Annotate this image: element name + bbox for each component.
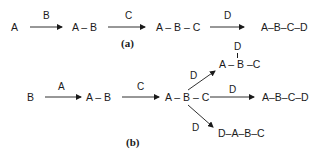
node-a-start: A: [11, 21, 18, 33]
caption-a: (a): [121, 37, 134, 49]
node-a-ab: A – B: [72, 21, 97, 33]
node-a-abcd: A–B–C–D: [261, 21, 308, 33]
product-prepended: D–A–B–C: [218, 127, 265, 139]
product-branched-substituent: D: [234, 41, 241, 53]
node-b-ab: A – B: [86, 91, 111, 103]
reagent-b-mid: D: [229, 84, 236, 96]
reagent-a-2: C: [125, 10, 132, 22]
product-branched: A – B –C: [219, 58, 260, 70]
reagent-b-up: D: [190, 70, 197, 82]
reagent-b-1: A: [58, 81, 65, 93]
product-linear: A–B–C–D: [262, 91, 309, 103]
reagent-a-3: D: [224, 10, 231, 22]
node-b-abc: A – B – C: [165, 91, 209, 103]
node-a-abc: A – B – C: [156, 21, 200, 33]
caption-b: (b): [126, 136, 139, 148]
node-b-start: B: [27, 91, 34, 103]
reagent-b-2: C: [137, 81, 144, 93]
reagent-b-down: D: [192, 122, 199, 134]
reagent-a-1: B: [43, 10, 50, 22]
